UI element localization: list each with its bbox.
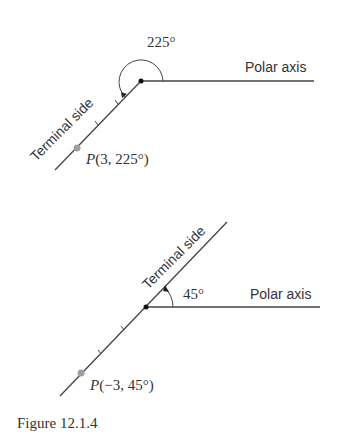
diagram-bottom: 45° Polar axis Terminal side P(−3, 45°) — [60, 222, 320, 396]
terminal-side-label: Terminal side — [139, 222, 209, 292]
angle-label: 225° — [147, 34, 176, 50]
diagram-top: 225° Polar axis Terminal side P(3, 225°) — [27, 34, 314, 170]
point-label: P(3, 225°) — [85, 151, 149, 168]
pole-point — [144, 305, 149, 310]
point-label: P(−3, 45°) — [89, 377, 154, 394]
angle-arc — [166, 289, 173, 307]
polar-axis-label: Polar axis — [250, 286, 311, 302]
tick-mark — [115, 100, 118, 104]
point-p — [78, 370, 85, 377]
tick-mark — [98, 350, 101, 354]
point-p — [74, 145, 81, 152]
angle-arc — [119, 60, 163, 97]
angle-label: 45° — [183, 286, 204, 302]
terminal-side-line — [60, 222, 227, 396]
polar-axis-label: Polar axis — [245, 59, 306, 75]
tick-mark — [121, 326, 124, 330]
polar-coordinates-figure: 225° Polar axis Terminal side P(3, 225°)… — [0, 0, 352, 447]
tick-mark — [95, 121, 98, 125]
figure-caption: Figure 12.1.4 — [17, 415, 97, 432]
pole-point — [139, 79, 144, 84]
